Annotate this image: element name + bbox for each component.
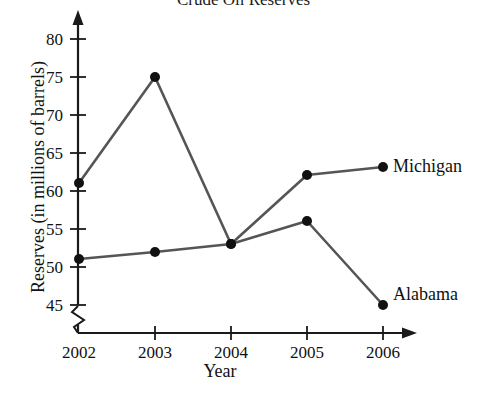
x-tick-label-2006: 2006 [351,344,415,361]
crude-oil-reserves-chart: Crude Oil Reserves [0,0,487,395]
x-tick-label-2004: 2004 [199,344,263,361]
x-tick-label-2002: 2002 [47,344,111,361]
series-markers-alabama [74,216,388,310]
series-label-alabama: Alabama [393,285,458,303]
series-markers-michigan [74,72,388,249]
x-axis [78,325,417,339]
series-line-michigan [79,77,383,244]
x-tick-label-2003: 2003 [123,344,187,361]
x-tick-label-2005: 2005 [275,344,339,361]
series-line-alabama [79,221,383,305]
plot-area [0,0,487,395]
series-label-michigan: Michigan [393,157,462,175]
x-axis-title: Year [0,362,440,380]
y-axis-title: Reserves (in millions of barrels) [29,27,47,327]
